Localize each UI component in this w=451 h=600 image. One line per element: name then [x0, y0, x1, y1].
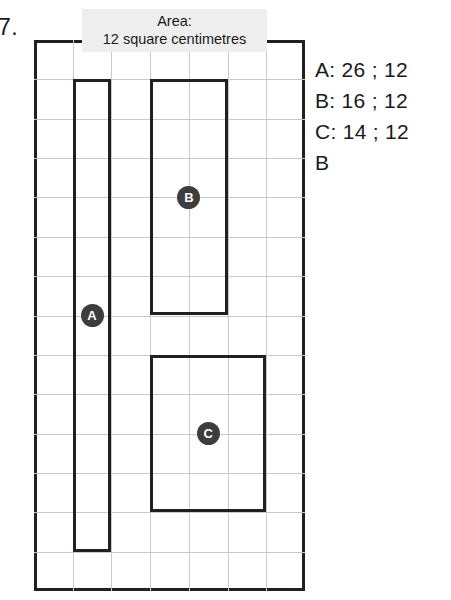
area-label-line2: 12 square centimetres — [86, 30, 263, 48]
grid-line-horizontal — [34, 552, 305, 553]
answer-line-a: A: 26 ; 12 — [315, 54, 451, 85]
worksheet-page: 7. ABC Area: 12 square centimetres A: 26… — [0, 0, 451, 600]
area-label: Area: 12 square centimetres — [82, 9, 267, 52]
answer-line-selected: B — [315, 147, 451, 178]
area-label-line1: Area: — [86, 12, 263, 30]
grid-figure: ABC — [34, 40, 305, 591]
question-number: 7. — [0, 16, 18, 39]
answer-line-c: C: 14 ; 12 — [315, 116, 451, 147]
shape-label-badge-a: A — [81, 304, 104, 327]
answers-list: A: 26 ; 12 B: 16 ; 12 C: 14 ; 12 B — [315, 54, 451, 178]
answer-line-b: B: 16 ; 12 — [315, 85, 451, 116]
shape-label-badge-c: C — [197, 422, 220, 445]
